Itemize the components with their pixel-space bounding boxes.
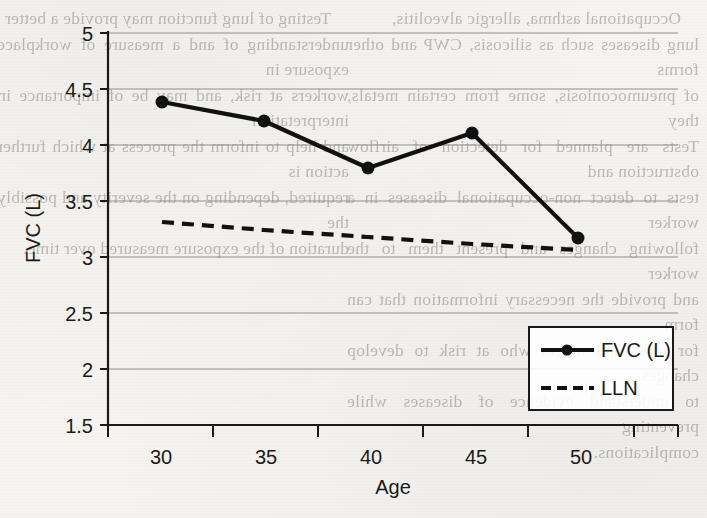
y-axis-tick-labels: 5 4.5 4 3.5 3 2.5 2 1.5 [65, 23, 93, 437]
y-axis-ticks [100, 33, 108, 425]
series-line-lln [162, 222, 578, 250]
y-tick-label-2.5: 2.5 [65, 303, 93, 325]
x-axis-tick-labels: 30 35 40 45 50 [150, 446, 592, 468]
y-tick-label-2: 2 [82, 359, 93, 381]
x-tick-label-40: 40 [360, 446, 382, 468]
chart-legend: FVC (L) LLN [529, 327, 673, 410]
x-tick-label-45: 45 [465, 446, 487, 468]
legend-label-fvc: FVC (L) [601, 339, 671, 361]
x-tick-label-50: 50 [570, 446, 592, 468]
y-tick-label-3.5: 3.5 [65, 191, 93, 213]
y-tick-label-5: 5 [82, 23, 93, 45]
x-axis-ticks [108, 425, 678, 437]
x-tick-label-30: 30 [150, 446, 172, 468]
y-tick-label-1.5: 1.5 [65, 415, 93, 437]
y-tick-label-3: 3 [82, 247, 93, 269]
series-markers-fvc [156, 96, 585, 245]
gridlines [108, 33, 678, 369]
fvc-vs-age-line-chart: 5 4.5 4 3.5 3 2.5 2 1.5 30 35 40 45 50 A… [0, 0, 707, 518]
data-point-fvc-30 [156, 96, 169, 109]
y-axis-title: FVC (L) [22, 193, 44, 263]
x-tick-label-35: 35 [255, 446, 277, 468]
data-point-fvc-35 [258, 115, 271, 128]
y-tick-label-4.5: 4.5 [65, 79, 93, 101]
data-point-fvc-45 [466, 127, 479, 140]
legend-label-lln: LLN [601, 377, 638, 399]
x-axis-title: Age [375, 476, 411, 498]
data-point-fvc-50 [572, 232, 585, 245]
legend-swatch-fvc-marker [562, 345, 573, 356]
y-tick-label-4: 4 [82, 135, 93, 157]
data-point-fvc-40 [362, 162, 375, 175]
